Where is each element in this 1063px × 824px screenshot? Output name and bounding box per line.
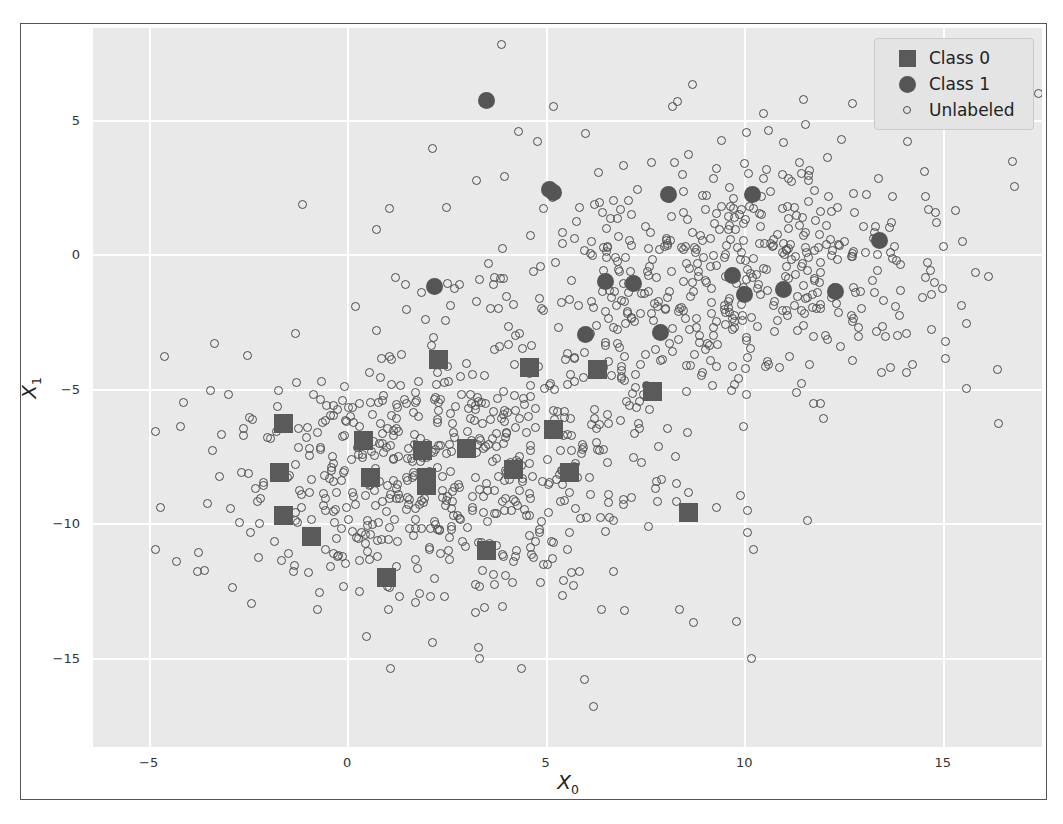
data-point-unlabeled [215,472,224,481]
data-point-unlabeled [607,371,616,380]
data-point-unlabeled [848,99,857,108]
data-point-unlabeled [362,632,371,641]
data-point-unlabeled [525,511,534,520]
data-point-unlabeled [629,453,638,462]
data-point-unlabeled [316,443,325,452]
data-point-unlabeled [156,503,165,512]
data-point-unlabeled [463,523,472,532]
data-point-unlabeled [565,295,574,304]
data-point-unlabeled [623,307,632,316]
data-point-unlabeled [488,457,497,466]
data-point-class-0 [417,468,436,487]
data-point-unlabeled [371,501,380,510]
data-point-unlabeled [355,587,364,596]
data-point-unlabeled [709,331,718,340]
data-point-unlabeled [468,506,477,515]
data-point-unlabeled [850,208,859,217]
data-point-unlabeled [289,567,298,576]
legend-item: Class 0 [885,45,1023,71]
data-point-unlabeled [151,427,160,436]
data-point-unlabeled [799,95,808,104]
data-point-unlabeled [764,126,773,135]
data-point-unlabeled [342,503,351,512]
data-point-unlabeled [742,390,751,399]
data-point-unlabeled [918,293,927,302]
data-point-unlabeled [471,608,480,617]
data-point-class-0 [504,460,523,479]
data-point-unlabeled [370,451,379,460]
data-point-unlabeled [536,578,545,587]
data-point-unlabeled [630,429,639,438]
data-point-class-1 [478,92,495,109]
data-point-class-0 [354,431,373,450]
data-point-unlabeled [570,354,579,363]
data-point-unlabeled [575,567,584,576]
data-point-unlabeled [753,284,762,293]
data-point-class-0 [270,463,289,482]
data-point-unlabeled [504,322,513,331]
data-point-unlabeled [526,231,535,240]
data-point-unlabeled [667,212,676,221]
data-point-unlabeled [393,537,402,546]
data-point-unlabeled [702,191,711,200]
data-point-unlabeled [885,223,894,232]
data-point-unlabeled [742,128,751,137]
data-point-class-0 [274,414,293,433]
data-point-unlabeled [701,205,710,214]
data-point-unlabeled [651,484,660,493]
data-point-unlabeled [449,428,458,437]
data-point-unlabeled [228,583,237,592]
data-point-unlabeled [813,288,822,297]
data-point-unlabeled [514,127,523,136]
data-point-unlabeled [337,524,346,533]
data-point-unlabeled [595,420,604,429]
chart-figure: −5051015 50−5−10−15 X0 X1 Class 0 Class … [0,0,1063,824]
data-point-unlabeled [938,284,947,293]
data-point-unlabeled [728,362,737,371]
data-point-class-1 [625,275,642,292]
data-point-unlabeled [749,545,758,554]
data-point-unlabeled [740,159,749,168]
data-point-unlabeled [588,251,597,260]
data-point-unlabeled [531,423,540,432]
data-point-unlabeled [351,302,360,311]
data-point-unlabeled [699,253,708,262]
data-point-unlabeled [571,504,580,513]
data-point-unlabeled [558,239,567,248]
data-point-unlabeled [492,442,501,451]
data-point-class-0 [457,439,476,458]
data-point-unlabeled [879,296,888,305]
data-point-unlabeled [442,203,451,212]
legend-item: Unlabeled [885,97,1023,123]
data-point-unlabeled [868,276,877,285]
data-point-unlabeled [727,386,736,395]
data-point-unlabeled [402,399,411,408]
data-point-unlabeled [430,574,439,583]
data-point-unlabeled [597,605,606,614]
data-point-unlabeled [695,331,704,340]
data-point-unlabeled [1034,89,1042,98]
data-point-unlabeled [759,109,768,118]
data-point-unlabeled [327,466,336,475]
data-point-unlabeled [908,360,917,369]
data-point-unlabeled [580,348,589,357]
data-point-unlabeled [683,428,692,437]
data-point-unlabeled [651,345,660,354]
data-point-unlabeled [160,352,169,361]
data-point-unlabeled [815,230,824,239]
data-point-unlabeled [440,592,449,601]
data-point-unlabeled [365,368,374,377]
data-point-unlabeled [698,236,707,245]
data-point-unlabeled [277,556,286,565]
data-point-unlabeled [799,321,808,330]
data-point-unlabeled [384,605,393,614]
data-point-unlabeled [926,266,935,275]
data-point-unlabeled [921,192,930,201]
data-point-unlabeled [417,288,426,297]
data-point-unlabeled [525,459,534,468]
data-point-unlabeled [814,243,823,252]
data-point-unlabeled [920,167,929,176]
data-point-unlabeled [689,287,698,296]
data-point-unlabeled [624,196,633,205]
data-point-unlabeled [431,393,440,402]
